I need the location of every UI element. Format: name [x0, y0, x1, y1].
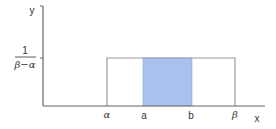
diagram-canvas: y x 1 β−α α a b β: [0, 0, 276, 129]
tick-b: b: [188, 110, 194, 121]
y-axis-label: y: [30, 5, 35, 16]
x-axis-label: x: [255, 113, 260, 124]
uniform-distribution-diagram: y x 1 β−α α a b β: [0, 0, 276, 129]
height-label-numerator: 1: [22, 45, 28, 56]
tick-alpha: α: [104, 109, 111, 120]
tick-a: a: [141, 110, 147, 121]
height-label-denominator: β−α: [14, 59, 36, 70]
tick-beta: β: [231, 109, 238, 120]
shaded-probability-region: [143, 58, 192, 106]
